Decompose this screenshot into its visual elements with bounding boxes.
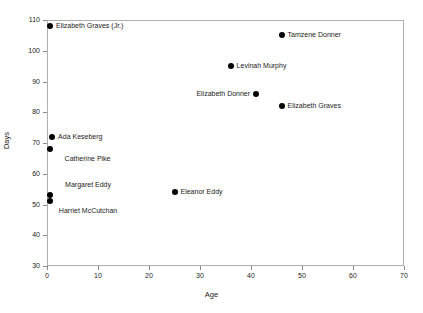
x-axis-tick bbox=[302, 266, 303, 270]
x-axis-tick-label: 20 bbox=[137, 272, 161, 279]
data-point-label: Ada Keseberg bbox=[58, 133, 102, 141]
data-point[interactable] bbox=[279, 32, 285, 38]
y-axis-tick bbox=[43, 266, 47, 267]
data-point[interactable] bbox=[172, 189, 178, 195]
x-axis-tick-label: 70 bbox=[392, 272, 416, 279]
data-point[interactable] bbox=[47, 146, 53, 152]
data-point-label: Eleanor Eddy bbox=[181, 188, 223, 196]
y-axis-tick bbox=[43, 235, 47, 236]
data-point-label: Harriet McCutchan bbox=[59, 207, 117, 215]
y-axis-tick-label: 70 bbox=[18, 139, 40, 146]
y-axis-tick-label: 30 bbox=[18, 262, 40, 269]
x-axis-tick bbox=[98, 266, 99, 270]
data-point-label: Elizabeth Graves (Jr.) bbox=[56, 22, 123, 30]
x-axis-tick-label: 50 bbox=[290, 272, 314, 279]
data-point[interactable] bbox=[253, 91, 259, 97]
y-axis-tick bbox=[43, 51, 47, 52]
y-axis-tick bbox=[43, 174, 47, 175]
y-axis-tick-label: 100 bbox=[18, 47, 40, 54]
x-axis-tick-label: 30 bbox=[188, 272, 212, 279]
plot-area-frame bbox=[47, 20, 404, 266]
x-axis-tick-label: 0 bbox=[35, 272, 59, 279]
y-axis-tick-label: 50 bbox=[18, 201, 40, 208]
x-axis-tick bbox=[251, 266, 252, 270]
y-axis-tick bbox=[43, 82, 47, 83]
data-point-label: Elizabeth Donner bbox=[196, 90, 250, 98]
y-axis-tick bbox=[43, 205, 47, 206]
x-axis-title: Age bbox=[0, 290, 423, 299]
y-axis-tick bbox=[43, 143, 47, 144]
y-axis-tick-label: 80 bbox=[18, 108, 40, 115]
data-point[interactable] bbox=[279, 103, 285, 109]
y-axis-title: Days bbox=[2, 121, 11, 161]
x-axis-tick bbox=[200, 266, 201, 270]
y-axis-tick bbox=[43, 112, 47, 113]
data-point-label: Catherine Pike bbox=[65, 155, 111, 163]
x-axis-tick bbox=[149, 266, 150, 270]
data-point[interactable] bbox=[228, 63, 234, 69]
x-axis-tick-label: 40 bbox=[239, 272, 263, 279]
x-axis-tick bbox=[404, 266, 405, 270]
data-point-label: Elizabeth Graves bbox=[288, 102, 341, 110]
data-point-label: Margaret Eddy bbox=[65, 181, 111, 189]
data-point-label: Tamzene Donner bbox=[288, 31, 341, 39]
x-axis-tick-label: 60 bbox=[341, 272, 365, 279]
scatter-plot-figure: 010203040506070 30405060708090100110 Eli… bbox=[0, 0, 423, 313]
y-axis-tick-label: 110 bbox=[18, 16, 40, 23]
y-axis-tick bbox=[43, 20, 47, 21]
x-axis-tick bbox=[353, 266, 354, 270]
y-axis-tick-label: 60 bbox=[18, 170, 40, 177]
data-point-label: Levinah Murphy bbox=[237, 62, 287, 70]
y-axis-tick-label: 40 bbox=[18, 231, 40, 238]
data-point[interactable] bbox=[49, 134, 55, 140]
y-axis-tick-label: 90 bbox=[18, 78, 40, 85]
x-axis-tick-label: 10 bbox=[86, 272, 110, 279]
x-axis-tick bbox=[47, 266, 48, 270]
